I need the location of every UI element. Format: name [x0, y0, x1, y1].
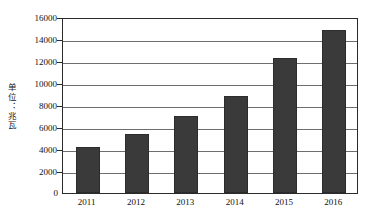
- y-axis-tick-label: 16000: [35, 14, 58, 23]
- y-axis-tick-label: 12000: [35, 58, 58, 67]
- bar: [174, 116, 198, 193]
- y-axis-zero-label: 0: [44, 189, 58, 198]
- y-axis-tick-mark: [57, 84, 62, 85]
- y-axis-title: 单位：兆瓦: [4, 62, 18, 152]
- x-axis-tick-label: 2013: [176, 197, 194, 208]
- x-axis-tick-label: 2015: [275, 197, 293, 208]
- y-axis-tick-label: 14000: [35, 36, 58, 45]
- y-axis-tick-mark: [57, 62, 62, 63]
- bar: [76, 147, 100, 193]
- y-axis-tick-label: 6000: [39, 124, 57, 133]
- x-axis-tick-label: 2011: [78, 197, 96, 208]
- x-axis-tick-label-group: 201120122013201420152016: [62, 197, 358, 215]
- y-axis-tick-label: 10000: [35, 80, 58, 89]
- bar: [273, 58, 297, 193]
- y-axis-tick-label: 4000: [39, 146, 57, 155]
- bar: [224, 96, 248, 193]
- y-axis-tick-mark: [57, 40, 62, 41]
- y-axis-tick-mark: [57, 172, 62, 173]
- y-axis-tick-mark: [57, 150, 62, 151]
- bar-group: [63, 19, 357, 193]
- y-axis-tick-label: 2000: [39, 168, 57, 177]
- x-axis-tick-label: 2012: [127, 197, 145, 208]
- y-axis-tick-label: 8000: [39, 102, 57, 111]
- y-axis-tick-mark: [57, 106, 62, 107]
- y-axis-tick-mark: [57, 18, 62, 19]
- x-axis-tick-label: 2014: [226, 197, 244, 208]
- plot-area: [62, 18, 358, 194]
- bar-chart-figure: 单位：兆瓦 2000400060008000100001200014000160…: [0, 0, 373, 223]
- x-axis-tick-label: 2016: [324, 197, 342, 208]
- bar: [322, 30, 346, 193]
- y-axis-tick-mark: [57, 128, 62, 129]
- bar: [125, 134, 149, 193]
